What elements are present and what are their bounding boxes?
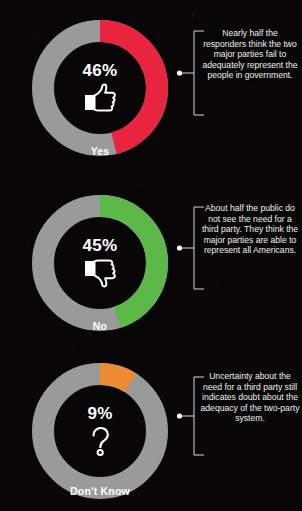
callout-no: About half the public do not see the nee… [178,203,300,293]
callout-text-dont-know: Uncertainty about the need for a third p… [200,371,300,424]
donut-svg-no [28,191,172,335]
chart-section-no: 45% No About half the public do not see … [0,177,302,347]
callout-dot-dont-know [177,413,182,418]
donut-svg-dont-know [28,359,172,503]
callout-dot-no [177,245,182,250]
donut-segment-remainder [43,374,157,488]
chart-section-yes: 46% Yes Nearly half the responders think… [0,2,302,172]
chart-label-yes: Yes [28,145,172,157]
callout-text-yes: Nearly half the responders think the two… [200,28,300,81]
callout-dot-yes [177,70,182,75]
callout-dont-know: Uncertainty about the need for a third p… [178,371,300,461]
callout-text-no: About half the public do not see the nee… [200,203,300,256]
callout-yes: Nearly half the responders think the two… [178,28,300,118]
donut-chart-dont-know: 9% [28,359,172,503]
donut-chart-no: 45% [28,191,172,335]
chart-label-no: No [28,320,172,332]
chart-label-dont-know: Don't Know [28,485,172,497]
donut-svg-yes [28,16,172,160]
chart-section-dont-know: 9% Don't Know Uncertainty about the need… [0,345,302,511]
donut-chart-yes: 46% [28,16,172,160]
